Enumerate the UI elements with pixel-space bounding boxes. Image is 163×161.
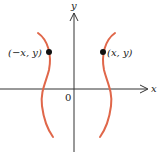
y-axis-label: y bbox=[70, 0, 77, 11]
point-right-label: (x, y) bbox=[107, 47, 133, 58]
point-left bbox=[46, 49, 52, 55]
x-axis-label: x bbox=[151, 83, 157, 94]
origin-label: 0 bbox=[65, 92, 71, 103]
symmetry-diagram: x y 0 (−x, y) (x, y) bbox=[0, 0, 163, 161]
point-left-label: (−x, y) bbox=[8, 47, 42, 58]
point-right bbox=[100, 49, 106, 55]
